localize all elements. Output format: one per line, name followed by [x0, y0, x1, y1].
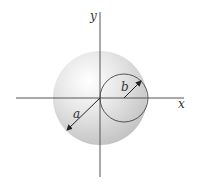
- diagram-svg: y x a b: [0, 0, 197, 187]
- diagram-canvas: y x a b: [0, 0, 197, 187]
- x-axis-label: x: [178, 97, 185, 111]
- radius-b-label: b: [121, 80, 129, 94]
- radius-a-label: a: [73, 107, 80, 121]
- y-axis-label: y: [89, 9, 97, 23]
